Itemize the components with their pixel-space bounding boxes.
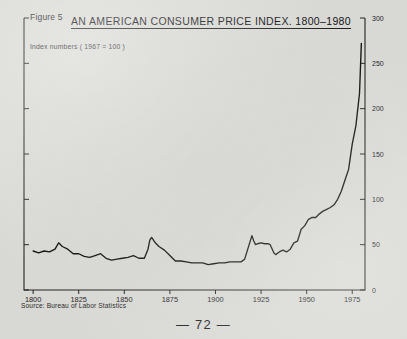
svg-text:150: 150: [372, 151, 384, 158]
svg-text:250: 250: [372, 60, 384, 67]
svg-text:0: 0: [372, 287, 376, 294]
data-series-group: [33, 43, 361, 264]
y-axis-labels: 050100150200250300: [372, 15, 384, 294]
svg-text:1975: 1975: [344, 295, 360, 304]
svg-text:200: 200: [372, 105, 384, 112]
svg-text:1925: 1925: [253, 295, 269, 304]
figure-5-container: Figure 5 AN AMERICAN CONSUMER PRICE INDE…: [0, 0, 407, 339]
svg-text:1950: 1950: [298, 295, 314, 304]
chart-plot-area: 050100150200250300 180018251850187519001…: [0, 0, 407, 339]
chart-axes: [24, 18, 365, 290]
chart-tick-marks: [24, 18, 365, 294]
svg-text:50: 50: [372, 241, 380, 248]
page-number: — 72 —: [0, 317, 407, 332]
svg-text:300: 300: [372, 15, 384, 22]
source-note: Source: Bureau of Labor Statistics: [21, 302, 126, 309]
svg-text:100: 100: [372, 196, 384, 203]
svg-text:1875: 1875: [162, 295, 178, 304]
svg-text:1900: 1900: [207, 295, 223, 304]
